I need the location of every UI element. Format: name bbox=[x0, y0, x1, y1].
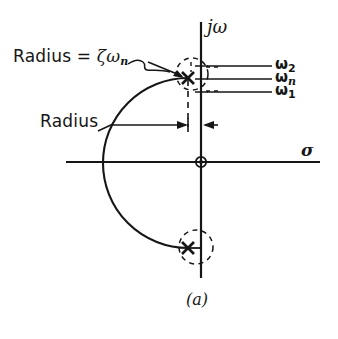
zeta-omega-symbol: ζω bbox=[97, 46, 120, 66]
omega-1-label: ω1 bbox=[275, 83, 296, 100]
radius-zeta-text: Radius = bbox=[13, 46, 97, 66]
jomega-axis-label: jω bbox=[207, 18, 227, 36]
omega-1-symbol: ω bbox=[275, 81, 288, 99]
radius-measure-arrowhead-icon bbox=[177, 121, 188, 129]
sigma-axis-label: σ bbox=[301, 142, 314, 159]
zeta-omega-subscript: n bbox=[120, 55, 128, 68]
omega-1-subscript: 1 bbox=[288, 88, 296, 101]
radius-label: Radius bbox=[40, 113, 98, 130]
zeta-measure-arrowhead-icon bbox=[203, 121, 214, 129]
origin-dot-icon bbox=[199, 160, 203, 164]
pole-zero-figure: Radius = ζωn Radius jω σ ω2 ωn ω1 (a) bbox=[0, 0, 338, 339]
constant-omega-arc bbox=[103, 78, 188, 248]
figure-caption: (a) bbox=[186, 292, 208, 308]
radius-zeta-omega-n-label: Radius = ζωn bbox=[13, 48, 129, 67]
